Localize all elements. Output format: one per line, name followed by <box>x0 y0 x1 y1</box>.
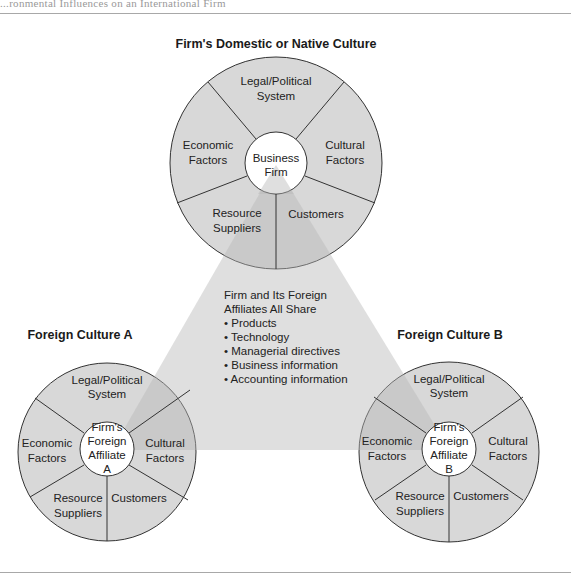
a-legal-label: Legal/Political <box>72 374 143 386</box>
b-center-label-2: Foreign <box>430 435 469 447</box>
shared-item-managerial: • Managerial directives <box>224 345 340 357</box>
a-resource-label-2: Suppliers <box>54 507 102 519</box>
b-resource-label: Resource <box>395 490 444 502</box>
foreign-b-title: Foreign Culture B <box>397 328 503 342</box>
a-center-label-4: A <box>103 463 111 475</box>
a-economic-label-2: Factors <box>28 452 67 464</box>
b-economic-label: Economic <box>362 435 413 447</box>
domestic-economic-label-2: Factors <box>189 154 228 166</box>
shared-item-accounting-info: • Accounting information <box>224 373 348 385</box>
domestic-cultural-label: Cultural <box>325 139 365 151</box>
b-resource-label-2: Suppliers <box>396 505 444 517</box>
a-center-label-2: Foreign <box>88 435 127 447</box>
domestic-cultural-label-2: Factors <box>326 154 365 166</box>
a-resource-label: Resource <box>53 492 102 504</box>
foreign-a-title: Foreign Culture A <box>27 328 132 342</box>
domestic-legal-label-2: System <box>257 90 295 102</box>
b-center-label-4: B <box>445 463 453 475</box>
domestic-title: Firm's Domestic or Native Culture <box>176 37 377 51</box>
shared-item-products: • Products <box>224 317 277 329</box>
a-economic-label: Economic <box>22 437 73 449</box>
b-cultural-label: Cultural <box>488 435 528 447</box>
a-center-label: Firm's <box>92 421 123 433</box>
domestic-center-label-2: Firm <box>265 166 288 178</box>
shared-item-technology: • Technology <box>224 331 289 343</box>
domestic-center-label: Business <box>253 152 300 164</box>
b-economic-label-2: Factors <box>368 450 407 462</box>
b-center-label-3: Affiliate <box>430 449 468 461</box>
domestic-legal-label: Legal/Political <box>241 75 312 87</box>
b-center-label: Firm's <box>434 421 465 433</box>
a-customers-label: Customers <box>111 492 167 504</box>
b-cultural-label-2: Factors <box>489 450 528 462</box>
shared-heading: Firm and Its Foreign <box>224 289 327 301</box>
a-cultural-label-2: Factors <box>146 452 185 464</box>
a-center-label-3: Affiliate <box>88 449 126 461</box>
a-legal-label-2: System <box>88 388 126 400</box>
b-customers-label: Customers <box>453 490 509 502</box>
domestic-resource-label-2: Suppliers <box>213 222 261 234</box>
a-cultural-label: Cultural <box>145 437 185 449</box>
b-legal-label: Legal/Political <box>414 373 485 385</box>
shared-heading-2: Affiliates All Share <box>224 303 316 315</box>
domestic-customers-label: Customers <box>288 208 344 220</box>
domestic-economic-label: Economic <box>183 139 234 151</box>
b-legal-label-2: System <box>430 387 468 399</box>
culture-diagram: Firm's Domestic or Native Culture Foreig… <box>0 0 571 579</box>
shared-item-business-info: • Business information <box>224 359 338 371</box>
domestic-resource-label: Resource <box>212 207 261 219</box>
